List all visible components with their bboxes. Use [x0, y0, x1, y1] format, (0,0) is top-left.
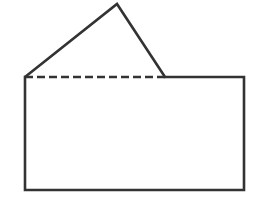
geometry-figure: [0, 0, 260, 198]
diagram-canvas: [0, 0, 260, 198]
rectangle-outline: [25, 77, 244, 190]
triangle-sides: [25, 4, 165, 77]
